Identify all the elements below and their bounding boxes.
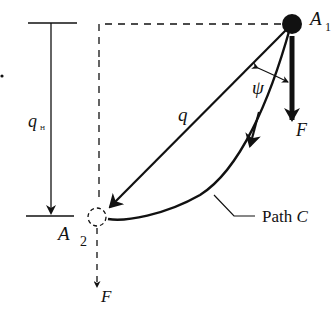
point-a2-label: A <box>56 223 70 244</box>
path-c-leader <box>214 195 255 216</box>
work-path-diagram: q H q Path C ψ F A 1 A 2 F <box>0 0 332 309</box>
displacement-label: q <box>178 104 188 125</box>
point-a2-ghost <box>88 208 106 226</box>
angle-psi-label: ψ <box>252 77 265 98</box>
point-a1-mass <box>282 14 302 34</box>
stray-dot <box>0 74 3 77</box>
height-label: q <box>28 111 37 131</box>
height-label-subscript: H <box>40 124 45 132</box>
force-label-top: F <box>295 120 308 140</box>
dashed-reference-lines <box>99 24 282 203</box>
point-a1-subscript: 1 <box>325 20 331 34</box>
displacement-vector <box>110 26 290 207</box>
force-label-bottom: F <box>100 287 112 306</box>
point-a2-subscript: 2 <box>80 234 87 249</box>
point-a1-label: A <box>308 8 322 29</box>
path-c-curve <box>108 28 290 220</box>
path-c-label: Path C <box>262 207 308 226</box>
